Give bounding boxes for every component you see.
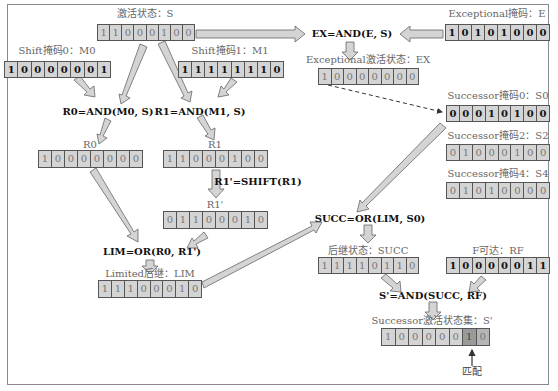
bit: 1 — [537, 258, 549, 273]
bit: 1 — [382, 329, 396, 345]
label-s0: Successor掩码0：S0 — [447, 90, 548, 102]
bit: 0 — [117, 151, 130, 167]
bit: 0 — [537, 106, 549, 121]
bit: 1 — [344, 258, 357, 273]
bit: 0 — [407, 258, 419, 273]
bit: 1 — [5, 62, 18, 77]
bit: 0 — [450, 329, 464, 345]
bit: 0 — [78, 151, 91, 167]
bit: 0 — [369, 258, 382, 273]
bit: 1 — [125, 281, 138, 297]
bit: 1 — [319, 69, 332, 84]
bit: 1 — [245, 62, 258, 77]
bit: 0 — [486, 145, 499, 160]
label-e: Exceptional掩码：E — [449, 8, 546, 20]
bit: 0 — [242, 151, 255, 167]
register-s4: 0 1 0 1 0 0 0 0 — [446, 182, 550, 199]
bit: 1 — [98, 25, 110, 40]
bit: 0 — [122, 25, 134, 40]
bit: 0 — [32, 62, 45, 77]
bit: 0 — [255, 151, 267, 167]
bit: 1 — [382, 258, 395, 273]
bit: 0 — [511, 25, 524, 40]
bit: 0 — [511, 258, 524, 273]
bit: 1 — [232, 62, 245, 77]
label-m0: Shift掩码0：M0 — [18, 45, 95, 57]
bit: 1 — [511, 145, 524, 160]
bit: 0 — [436, 329, 450, 345]
register-ex: 1 0 0 0 0 0 0 0 — [318, 68, 419, 85]
bit: 0 — [71, 62, 84, 77]
equation-r0: R0=AND(M0, S) — [63, 106, 154, 118]
bit: 0 — [460, 258, 473, 273]
bit: 0 — [460, 106, 473, 121]
bit: 0 — [473, 106, 486, 121]
bit: 1 — [258, 62, 271, 77]
bit: 1 — [332, 258, 345, 273]
register-r0: 1 0 0 0 0 0 0 0 — [38, 150, 143, 168]
bit: 1 — [394, 258, 407, 273]
bit: 0 — [171, 25, 183, 40]
equation-lim: LIM=OR(R0, R1') — [103, 246, 201, 258]
bit: 0 — [344, 69, 357, 84]
bit: 0 — [190, 151, 203, 167]
equation-s-prime: S'=AND(SUCC, RF) — [379, 290, 487, 302]
register-m1: 1 1 1 1 1 1 1 0 — [178, 61, 284, 78]
bit: 1 — [179, 62, 192, 77]
arrow-ex-to-s0-dashed — [328, 85, 442, 112]
label-s2: Successor掩码2：S2 — [447, 130, 548, 142]
bit: 1 — [498, 25, 511, 40]
bit: 0 — [85, 62, 98, 77]
bit: 0 — [524, 145, 537, 160]
arrow-m1-to-r1 — [218, 78, 237, 97]
bit: 0 — [524, 183, 537, 198]
bit: 0 — [423, 329, 437, 345]
bit: 0 — [203, 212, 216, 228]
register-m0: 1 0 0 0 0 0 0 1 — [4, 61, 111, 78]
bit: 0 — [369, 69, 382, 84]
bit: 1 — [229, 151, 242, 167]
arrow-succeq-down — [360, 225, 376, 243]
bit: 0 — [134, 25, 146, 40]
register-r1: 1 1 0 0 0 1 0 0 — [163, 150, 268, 168]
bit: 0 — [138, 281, 151, 297]
bit: 1 — [112, 281, 125, 297]
bit: 0 — [447, 145, 460, 160]
bit: 0 — [407, 69, 419, 84]
bit: 0 — [52, 151, 65, 167]
label-s: 激活状态：S — [117, 8, 174, 20]
bit: 1 — [446, 25, 459, 40]
bit-matched: 1 — [463, 329, 477, 345]
bit: 0 — [58, 62, 71, 77]
arrow-e-to-ex — [400, 26, 443, 42]
bit: 1 — [511, 106, 524, 121]
bit: 1 — [190, 212, 203, 228]
bit: 0 — [473, 145, 486, 160]
register-rf: 1 0 0 0 0 0 1 1 — [446, 257, 550, 274]
bit: 1 — [99, 281, 112, 297]
bit: 0 — [216, 212, 229, 228]
bit: 0 — [394, 69, 407, 84]
equation-ex: EX=AND(E, S) — [312, 28, 393, 40]
bit: 0 — [477, 329, 490, 345]
bit: 1 — [242, 212, 255, 228]
arrow-r0eq-to-r0 — [97, 118, 111, 144]
arrow-s-to-ex — [196, 26, 305, 42]
label-m1: Shift掩码1：M1 — [191, 45, 268, 57]
label-s-prime: Successor激活状态集：S' — [371, 315, 492, 327]
bit: 0 — [104, 151, 117, 167]
bit: 0 — [203, 151, 216, 167]
bit: 0 — [499, 258, 512, 273]
label-succ: 后继状态：SUCC — [328, 245, 409, 257]
bit: 0 — [18, 62, 31, 77]
bit: 1 — [460, 145, 473, 160]
register-s-prime: 1 0 0 0 0 0 1 0 — [381, 328, 490, 346]
bit: 0 — [447, 106, 460, 121]
bit: 0 — [537, 25, 549, 40]
register-succ: 1 1 1 1 0 1 1 0 — [318, 257, 419, 274]
match-label: 匹配 — [462, 366, 482, 378]
bit: 0 — [537, 183, 549, 198]
bit: 0 — [255, 212, 267, 228]
bit: 1 — [460, 183, 473, 198]
bit: 0 — [409, 329, 423, 345]
